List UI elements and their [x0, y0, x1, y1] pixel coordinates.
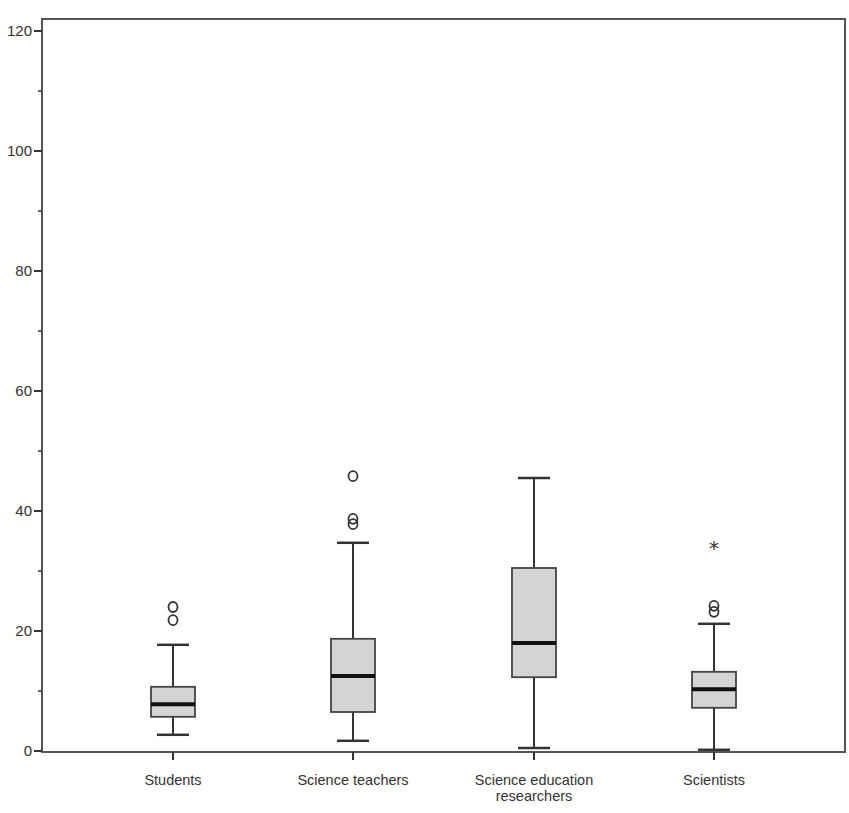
y-tick-label: 80: [15, 262, 32, 279]
y-tick-label: 100: [7, 142, 32, 159]
box-group-science-teachers: [331, 471, 375, 741]
category-label: Science education: [475, 772, 594, 788]
y-tick-label: 20: [15, 622, 32, 639]
iqr-box: [151, 687, 195, 717]
extreme-marker: *: [709, 536, 719, 560]
plot-border: [42, 19, 845, 752]
y-tick-label: 120: [7, 22, 32, 39]
y-tick-label: 60: [15, 382, 32, 399]
box-group-scientists: *: [692, 536, 736, 750]
outlier-marker: [169, 602, 178, 612]
box-group-science-education-researchers: [512, 478, 556, 748]
plot-frame: [42, 19, 845, 752]
iqr-box: [512, 568, 556, 677]
outlier-marker: [349, 471, 358, 481]
boxes: *: [151, 471, 736, 750]
x-axis: StudentsScience teachersScience educatio…: [144, 752, 745, 804]
y-tick-label: 0: [24, 742, 32, 759]
boxplot-chart: 020406080100120 StudentsScience teachers…: [0, 0, 849, 813]
box-group-students: [151, 602, 195, 735]
outlier-marker: [710, 601, 719, 611]
y-tick-label: 40: [15, 502, 32, 519]
category-label: Scientists: [683, 772, 745, 788]
y-axis: 020406080100120: [7, 22, 42, 759]
outlier-marker: [169, 615, 178, 625]
category-label: Students: [144, 772, 201, 788]
category-label: researchers: [496, 788, 573, 804]
category-label: Science teachers: [297, 772, 408, 788]
